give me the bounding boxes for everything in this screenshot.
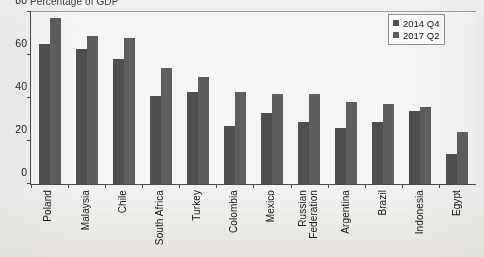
bar[interactable] xyxy=(187,92,198,184)
x-axis-label-cell: Mexico xyxy=(253,190,290,256)
x-axis-labels: PolandMalaysiaChileSouth AfricaTurkeyCol… xyxy=(30,190,476,256)
x-axis-label-cell: Malaysia xyxy=(67,190,104,256)
bar[interactable] xyxy=(309,94,320,184)
bar-group xyxy=(291,12,328,184)
x-axis-label-cell: South Africa xyxy=(142,190,179,256)
bar[interactable] xyxy=(272,94,283,184)
x-axis-tick-label: Malaysia xyxy=(81,190,92,230)
bar[interactable] xyxy=(161,68,172,184)
x-axis-label-cell: Russian Federation xyxy=(290,190,327,256)
bar[interactable] xyxy=(87,36,98,184)
x-axis-tick-mark xyxy=(142,184,143,188)
y-axis-tick-label: 0 xyxy=(21,166,27,178)
bar[interactable] xyxy=(335,128,346,184)
x-axis-tick-label: Colombia xyxy=(229,190,240,233)
bar-group xyxy=(142,12,179,184)
bar[interactable] xyxy=(420,107,431,184)
x-axis-label-cell: Brazil xyxy=(365,190,402,256)
x-axis-tick-mark xyxy=(439,184,440,188)
bar-group xyxy=(216,12,253,184)
x-axis-tick-mark xyxy=(291,184,292,188)
bar[interactable] xyxy=(50,18,61,184)
x-axis-tick-label: Brazil xyxy=(378,190,389,216)
bar[interactable] xyxy=(124,38,135,184)
x-axis-label-cell: Indonesia xyxy=(402,190,439,256)
bar-group xyxy=(179,12,216,184)
x-axis-tick-label: Poland xyxy=(43,190,54,222)
bar[interactable] xyxy=(113,59,124,184)
x-axis-tick-mark xyxy=(179,184,180,188)
bar[interactable] xyxy=(372,122,383,184)
x-axis-tick-label: Turkey xyxy=(192,190,203,221)
bar-group xyxy=(253,12,290,184)
x-axis-label-cell: Chile xyxy=(104,190,141,256)
x-axis-tick-label: Chile xyxy=(118,190,129,213)
bar[interactable] xyxy=(235,92,246,184)
x-axis-tick-label: Mexico xyxy=(266,190,277,222)
chart-legend: 2014 Q4 2017 Q2 xyxy=(388,14,445,45)
x-axis-tick-mark xyxy=(253,184,254,188)
legend-item-label: 2017 Q2 xyxy=(403,30,439,41)
x-axis-label-cell: Turkey xyxy=(179,190,216,256)
x-axis-tick-mark xyxy=(31,184,32,188)
bar-group xyxy=(328,12,365,184)
x-axis-tick-mark xyxy=(68,184,69,188)
x-axis-label-cell: Poland xyxy=(30,190,67,256)
legend-item[interactable]: 2017 Q2 xyxy=(393,29,439,41)
y-axis-tick-label: 40 xyxy=(15,80,27,92)
bar[interactable] xyxy=(76,49,87,184)
bar-group xyxy=(31,12,68,184)
x-axis-tick-label: Argentina xyxy=(341,190,352,234)
y-axis-tick-label: 80 xyxy=(15,0,27,6)
x-axis-tick-mark xyxy=(365,184,366,188)
x-axis-label-cell: Colombia xyxy=(216,190,253,256)
y-axis-tick-label: 20 xyxy=(15,123,27,135)
x-axis-label-cell: Egypt xyxy=(439,190,476,256)
bar[interactable] xyxy=(446,154,457,184)
legend-item[interactable]: 2014 Q4 xyxy=(393,17,439,29)
x-axis-tick-mark xyxy=(328,184,329,188)
bar[interactable] xyxy=(457,132,468,184)
bar[interactable] xyxy=(198,77,209,185)
x-axis-tick-label: Egypt xyxy=(452,190,463,216)
x-axis-tick-label: South Africa xyxy=(155,190,166,245)
bar[interactable] xyxy=(39,44,50,184)
bar[interactable] xyxy=(346,102,357,184)
legend-item-label: 2014 Q4 xyxy=(403,18,439,29)
bar[interactable] xyxy=(409,111,420,184)
bar[interactable] xyxy=(224,126,235,184)
bar-group xyxy=(68,12,105,184)
x-axis-label-cell: Argentina xyxy=(327,190,364,256)
x-axis-tick-mark xyxy=(402,184,403,188)
legend-swatch-icon xyxy=(393,32,399,38)
bar[interactable] xyxy=(383,104,394,184)
bar[interactable] xyxy=(150,96,161,184)
x-axis-tick-mark xyxy=(105,184,106,188)
bar-group xyxy=(105,12,142,184)
x-axis-tick-label: Russian Federation xyxy=(298,190,319,239)
x-axis-tick-label: Indonesia xyxy=(415,190,426,234)
y-axis-tick-label: 60 xyxy=(15,37,27,49)
bar[interactable] xyxy=(298,122,309,184)
x-axis-tick-mark xyxy=(216,184,217,188)
chart-title: Percentage of GDP xyxy=(30,0,118,7)
bar[interactable] xyxy=(261,113,272,184)
legend-swatch-icon xyxy=(393,20,399,26)
